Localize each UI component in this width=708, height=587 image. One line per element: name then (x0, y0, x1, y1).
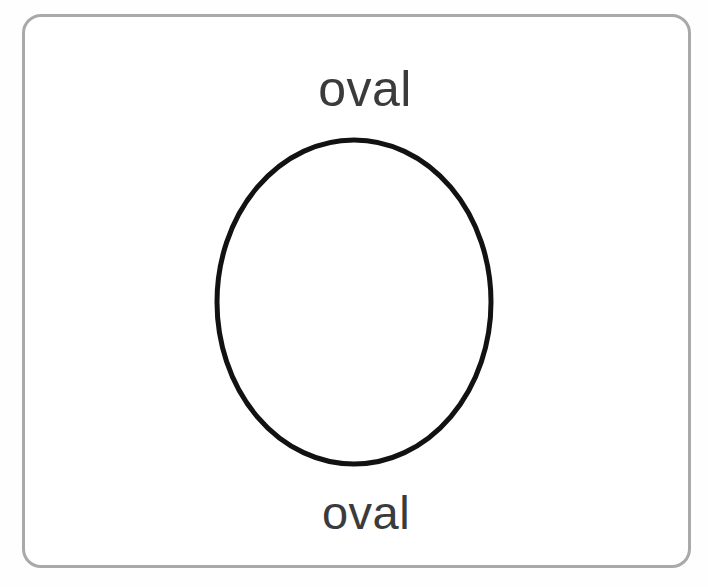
oval-label-top: oval (11, 64, 708, 114)
oval-label-bottom: oval (12, 489, 708, 536)
screenshot-canvas: oval oval (0, 0, 708, 587)
